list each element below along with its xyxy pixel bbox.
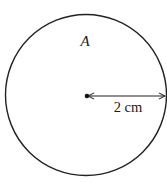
circle-label: A: [79, 33, 90, 49]
radius-label: 2 cm: [114, 99, 143, 115]
circle-diagram: A 2 cm: [0, 0, 167, 183]
